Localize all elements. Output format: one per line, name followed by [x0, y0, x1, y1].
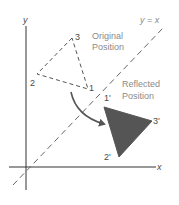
original-triangle	[37, 38, 88, 89]
original-caption-line2: Position	[92, 42, 124, 52]
line-label: y = x	[139, 15, 160, 25]
vertex-label-2: 2	[30, 78, 35, 88]
vertex-label-3: 3	[75, 32, 80, 42]
reflected-caption-line1: Reflected	[122, 79, 160, 89]
reflection-diagram: y x y = x Original Position Reflected Po…	[0, 0, 179, 205]
original-caption-line1: Original	[92, 31, 123, 41]
line-y-equals-x	[13, 28, 163, 185]
vertex-label-2-prime: 2'	[104, 152, 111, 162]
y-axis-label: y	[22, 15, 28, 25]
vertex-label-3-prime: 3'	[153, 116, 160, 126]
x-axis-label: x	[156, 162, 162, 172]
reflected-triangle	[104, 107, 152, 157]
vertex-label-1: 1	[89, 83, 94, 93]
reflected-caption-line2: Position	[122, 91, 154, 101]
vertex-label-1-prime: 1'	[104, 93, 111, 103]
